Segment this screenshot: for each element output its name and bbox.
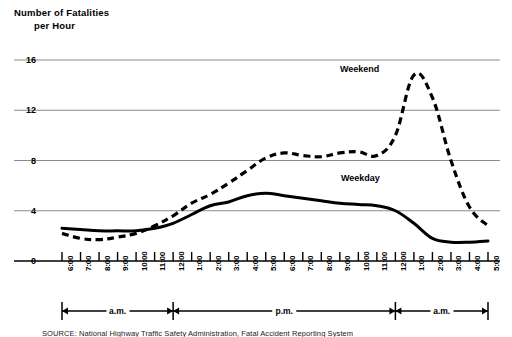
series-line-weekday [62,193,488,242]
x-axis-label-10: 4:00 [251,256,260,271]
y-axis-label-16: 16 [14,55,36,65]
y-axis-label-0: 0 [14,256,36,266]
x-axis-label-17: 11:00 [380,252,389,271]
bracket-arrow [167,308,173,315]
x-axis-label-11: 5:00 [269,256,278,271]
x-axis-label-16: 10:00 [362,252,371,271]
period-label-2: a.m. [430,306,453,316]
x-axis-label-22: 4:00 [473,256,482,271]
x-axis-label-21: 3:00 [454,256,463,271]
y-axis-label-12: 12 [14,105,36,115]
x-axis-label-0: 6:00 [66,256,75,271]
bracket-arrow [482,308,488,315]
chart-plot-area [0,0,512,337]
x-axis-label-9: 3:00 [232,256,241,271]
series-label-weekday: Weekday [341,173,380,183]
data-series-group [62,73,488,242]
x-axis-label-23: 5:00 [492,256,501,271]
source-note: SOURCE: National Highway Traffic Safety … [42,329,353,337]
chart-page: Number of Fatalities per Hour 0481216 6:… [0,0,512,337]
x-axis-label-4: 10:00 [140,252,149,271]
x-axis-label-14: 8:00 [325,256,334,271]
x-axis-label-19: 1:00 [417,256,426,271]
bracket-arrow [173,308,179,315]
x-axis-label-3: 9:00 [121,256,130,271]
x-axis-label-6: 12:00 [177,252,186,271]
x-axis-label-5: 11:00 [158,252,167,271]
x-axis-label-12: 6:00 [288,256,297,271]
bracket-arrow [395,308,401,315]
series-line-weekend [62,73,488,240]
x-axis-label-2: 8:00 [103,256,112,271]
x-axis-label-15: 9:00 [343,256,352,271]
x-axis-label-18: 12:00 [399,252,408,271]
x-axis-label-8: 2:00 [214,256,223,271]
x-axis-label-20: 2:00 [436,256,445,271]
period-label-0: a.m. [106,306,129,316]
x-axis-label-13: 7:00 [306,256,315,271]
y-axis-label-4: 4 [14,206,36,216]
bracket-arrow [389,308,395,315]
y-axis-label-8: 8 [14,156,36,166]
chart-svg [0,0,512,337]
x-axis-label-1: 7:00 [84,256,93,271]
period-label-1: p.m. [273,306,296,316]
bracket-arrow [62,308,68,315]
x-axis-label-7: 1:00 [195,256,204,271]
series-label-weekend: Weekend [340,64,379,74]
